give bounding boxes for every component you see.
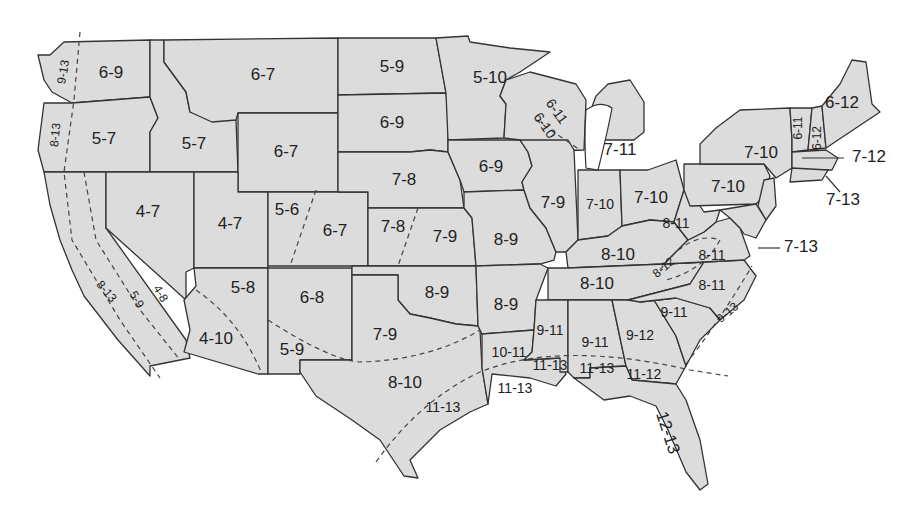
label-ri-callout: 7-13: [826, 190, 860, 209]
label-la-north: 10-11: [492, 344, 527, 360]
label-nh: 6-12: [810, 126, 824, 150]
label-ar: 8-9: [494, 295, 519, 314]
label-tn: 8-10: [580, 274, 614, 293]
label-az-south: 4-10: [199, 329, 233, 348]
label-mo: 8-9: [494, 230, 519, 249]
label-ma-callout: 7-12: [852, 147, 886, 166]
label-ks-east: 7-9: [433, 227, 458, 246]
label-or-coast: 8-13: [47, 122, 63, 148]
label-id: 5-7: [182, 134, 207, 153]
label-in: 7-10: [586, 196, 614, 212]
label-tx-central: 8-10: [388, 373, 422, 392]
label-or: 5-7: [92, 129, 117, 148]
state-florida: [574, 366, 708, 490]
label-mi: 7-11: [604, 140, 637, 159]
label-pa: 7-10: [711, 177, 745, 196]
label-nv: 4-7: [136, 202, 161, 221]
label-ga-south: 11-12: [627, 366, 662, 382]
label-tx-coast: 11-13: [426, 399, 461, 415]
state-washington: [38, 40, 150, 103]
label-wa: 6-9: [99, 63, 124, 82]
label-co-west: 5-6: [275, 200, 300, 219]
label-mt: 6-7: [251, 65, 276, 84]
label-nm-south: 5-9: [280, 340, 305, 359]
label-nc: 8-11: [699, 277, 726, 293]
label-va: 8-11: [699, 247, 726, 263]
label-ut: 4-7: [218, 214, 243, 233]
label-co-east: 6-7: [323, 221, 348, 240]
state-massachusetts: [792, 150, 838, 170]
us-hardiness-zone-map: 6-9 9-13 5-7 8-13 8-13 5-9 4-8 5-7 6-7 6…: [0, 0, 918, 513]
label-me: 6-12: [825, 93, 859, 112]
label-la-south: 11-13: [498, 380, 533, 396]
label-mn: 5-10: [473, 68, 507, 87]
label-wv: 8-11: [663, 215, 690, 231]
label-oh: 7-10: [634, 188, 668, 207]
label-wy: 6-7: [274, 142, 299, 161]
label-al-south: 11-13: [580, 360, 615, 376]
label-ia: 6-9: [479, 157, 504, 176]
label-tx-north: 7-9: [373, 325, 398, 344]
label-ms-south: 11-13: [533, 357, 568, 373]
label-md-callout: 7-13: [784, 237, 818, 256]
label-nd: 5-9: [380, 57, 405, 76]
label-ky: 8-10: [601, 245, 635, 264]
label-al: 9-11: [582, 334, 609, 350]
label-il: 7-9: [541, 193, 566, 212]
label-ks-west: 7-8: [381, 217, 406, 236]
label-sd: 6-9: [380, 113, 405, 132]
label-ne: 7-8: [392, 170, 417, 189]
label-ny: 7-10: [744, 143, 778, 162]
state-connecticut-ri: [790, 168, 828, 182]
label-ok: 8-9: [425, 283, 450, 302]
label-sc: 9-11: [661, 304, 688, 320]
label-ms: 9-11: [537, 322, 564, 338]
label-vt: 6-11: [791, 116, 805, 139]
label-nm: 6-8: [300, 288, 325, 307]
label-az-north: 5-8: [231, 278, 256, 297]
label-ga: 9-12: [626, 327, 654, 343]
